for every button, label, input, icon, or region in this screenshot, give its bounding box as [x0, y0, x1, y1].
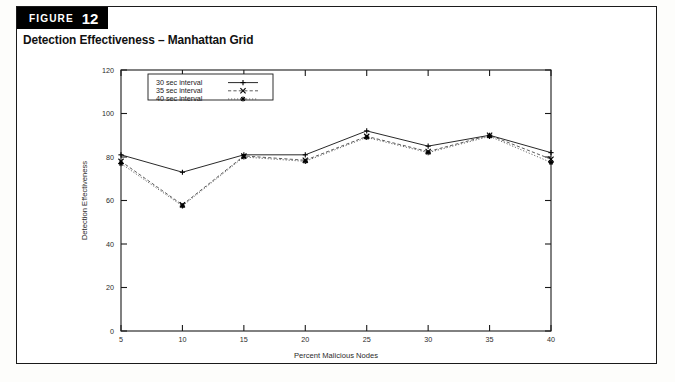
figure-badge: FIGURE 12 [17, 7, 108, 29]
figure-badge-number: 12 [82, 11, 99, 26]
figure-caption: Detection Effectiveness – Manhattan Grid [23, 33, 253, 47]
figure-badge-word: FIGURE [29, 12, 74, 24]
figure-page: FIGURE 12 Detection Effectiveness – Manh… [0, 0, 675, 382]
figure-frame [16, 6, 657, 364]
